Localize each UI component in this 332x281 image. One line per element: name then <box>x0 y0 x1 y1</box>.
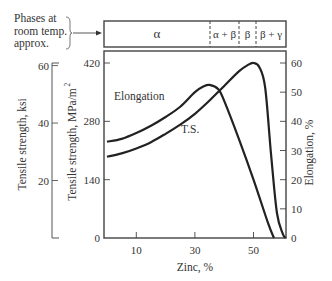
elongation-annotation: Elongation <box>114 90 165 103</box>
phase-label: β <box>245 28 251 40</box>
phase-label: β + γ <box>260 28 282 40</box>
y-axis-label-mpa: Tensile strength, MPa/m <box>66 88 79 201</box>
x-tick-label: 50 <box>248 244 260 256</box>
x-tick-label: 30 <box>189 244 201 256</box>
phase-caption: approx. <box>14 37 49 50</box>
elong-tick-label: 50 <box>291 86 303 98</box>
y-tick-label: 420 <box>84 57 101 69</box>
x-axis-label: Zinc, % <box>177 261 214 274</box>
ksi-tick-label: 20 <box>38 175 50 187</box>
ksi-tick-label: 60 <box>38 60 50 72</box>
y-tick-label: 0 <box>95 232 101 244</box>
y-axis-label-elongation: Elongation, % <box>303 119 316 185</box>
phase-box <box>104 21 286 47</box>
plot-frame <box>104 51 286 238</box>
elong-tick-label: 0 <box>291 232 297 244</box>
x-tick-label: 10 <box>131 244 143 256</box>
phase-caption: room temp. <box>14 25 67 38</box>
elong-tick-label: 20 <box>291 174 303 186</box>
phase-label: α + β <box>213 28 236 40</box>
y-tick-label: 140 <box>84 174 101 186</box>
ksi-tick-label: 40 <box>38 117 50 129</box>
ts-annotation: T.S. <box>181 123 199 135</box>
elong-tick-label: 10 <box>291 203 303 215</box>
phase-caption: Phases at <box>14 12 57 24</box>
phase-label: α <box>154 26 161 41</box>
y-axis-label-ksi: Tensile strength, ksi <box>16 98 29 190</box>
elong-tick-label: 40 <box>291 115 303 127</box>
arrowhead-icon <box>96 31 102 36</box>
y-tick-label: 280 <box>84 115 101 127</box>
elong-tick-label: 60 <box>291 57 303 69</box>
elongation-curve <box>107 85 274 238</box>
tensile-elongation-chart: αα + βββ + γPhases atroom temp.approx.10… <box>0 0 332 281</box>
elong-tick-label: 30 <box>291 145 303 157</box>
superscript: 2 <box>63 83 72 87</box>
